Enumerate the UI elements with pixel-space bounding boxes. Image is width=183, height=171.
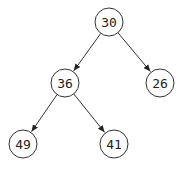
tree-node-26: 26 bbox=[146, 69, 174, 97]
tree-node-49: 49 bbox=[9, 130, 37, 158]
tree-node-36: 36 bbox=[51, 69, 79, 97]
edges bbox=[32, 33, 151, 133]
node-label: 30 bbox=[101, 15, 117, 30]
edge-30-to-36 bbox=[74, 33, 101, 70]
edge-36-to-41 bbox=[74, 94, 105, 132]
tree-node-30: 30 bbox=[95, 8, 123, 36]
edge-36-to-49 bbox=[32, 95, 58, 132]
tree-node-41: 41 bbox=[100, 130, 128, 158]
node-label: 26 bbox=[152, 76, 168, 91]
nodes: 30 36 26 49 41 bbox=[9, 8, 174, 158]
node-label: 49 bbox=[15, 137, 31, 152]
node-label: 41 bbox=[106, 137, 122, 152]
edge-30-to-26 bbox=[118, 33, 150, 72]
tree-diagram: 30 36 26 49 41 bbox=[0, 0, 183, 171]
node-label: 36 bbox=[57, 76, 73, 91]
